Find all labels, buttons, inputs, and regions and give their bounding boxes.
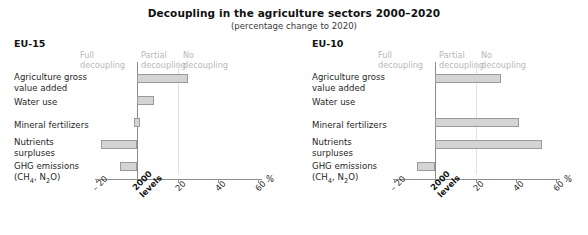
bar-eu15-mineral-fertilizers bbox=[134, 118, 140, 127]
category-label-mineral-fertilizers-eu10: Mineral fertilizers bbox=[312, 120, 387, 131]
category-label-nutrients-surpluses-eu10: Nutrients surpluses bbox=[312, 137, 353, 158]
category-label-line2: (CH4, N2O) bbox=[14, 172, 79, 186]
zone-label-full-line1-eu15: Full bbox=[80, 50, 94, 60]
panel-eu15: EU-15 Full decoupling Partial decoupling… bbox=[0, 34, 294, 235]
chart-title: Decoupling in the agriculture sectors 20… bbox=[0, 7, 588, 19]
x-ticklabel-40-eu15: 40 bbox=[213, 178, 228, 193]
zone-label-full-line2-eu10: decoupling bbox=[378, 60, 423, 70]
zone-label-partial-line2-eu10: decoupling bbox=[439, 60, 484, 70]
zone-label-full-eu15: Full decoupling bbox=[80, 50, 125, 70]
x-axis-unit-eu15: % bbox=[266, 174, 274, 184]
zone-label-no-line2-eu15: decoupling bbox=[183, 60, 228, 70]
category-label-line1: Agriculture gross bbox=[312, 72, 385, 82]
bar-eu15-water-use bbox=[137, 96, 154, 105]
zone-label-full-eu10: Full decoupling bbox=[378, 50, 423, 70]
bar-eu15-nutrients-surpluses bbox=[101, 140, 137, 149]
bar-eu10-ghg-emissions bbox=[417, 162, 435, 171]
category-label-line2: surpluses bbox=[312, 148, 353, 159]
category-label-line1: Nutrients bbox=[14, 137, 54, 147]
category-label-nutrients-surpluses-eu15: Nutrients surpluses bbox=[14, 137, 55, 158]
category-label-line1: Mineral fertilizers bbox=[312, 120, 387, 130]
bar-eu10-mineral-fertilizers bbox=[435, 118, 519, 127]
category-label-line1: Nutrients bbox=[312, 137, 352, 147]
zone-label-no-line2-eu10: decoupling bbox=[481, 60, 526, 70]
x-axis-unit-eu10: % bbox=[564, 174, 572, 184]
panel-eu10: EU-10 Full decoupling Partial decoupling… bbox=[294, 34, 588, 235]
category-label-line1: Mineral fertilizers bbox=[14, 120, 89, 130]
category-label-mineral-fertilizers-eu15: Mineral fertilizers bbox=[14, 120, 89, 131]
category-label-water-use-eu10: Water use bbox=[312, 97, 355, 108]
category-label-ghg-emissions-eu15: GHG emissions (CH4, N2O) bbox=[14, 161, 79, 186]
category-label-water-use-eu15: Water use bbox=[14, 97, 57, 108]
category-label-agriculture-gva-eu10: Agriculture gross value added bbox=[312, 72, 385, 93]
zone-label-no-line1-eu10: No bbox=[481, 50, 492, 60]
chart-subtitle: (percentage change to 2020) bbox=[0, 21, 588, 31]
category-label-ghg-emissions-eu10: GHG emissions (CH4, N2O) bbox=[312, 161, 377, 186]
category-label-line1: Water use bbox=[312, 97, 355, 107]
zone-label-no-eu15: No decoupling bbox=[183, 50, 228, 70]
x-ticklabel-20-eu10: 20 bbox=[471, 178, 486, 193]
category-label-line2: surpluses bbox=[14, 148, 55, 159]
category-label-line2: value added bbox=[14, 83, 87, 94]
category-label-agriculture-gva-eu15: Agriculture gross value added bbox=[14, 72, 87, 93]
x-ticklabel-40-eu10: 40 bbox=[511, 178, 526, 193]
zone-label-partial-eu15: Partial decoupling bbox=[141, 50, 186, 70]
category-label-line1: Water use bbox=[14, 97, 57, 107]
zone-label-partial-eu10: Partial decoupling bbox=[439, 50, 484, 70]
category-label-line2: (CH4, N2O) bbox=[312, 172, 377, 186]
bar-eu15-agriculture-gva bbox=[137, 74, 188, 83]
zone-label-full-line1-eu10: Full bbox=[378, 50, 392, 60]
zone-label-full-line2-eu15: decoupling bbox=[80, 60, 125, 70]
zone-label-no-eu10: No decoupling bbox=[481, 50, 526, 70]
category-label-line1: GHG emissions bbox=[312, 161, 377, 171]
zone-label-partial-line2-eu15: decoupling bbox=[141, 60, 186, 70]
category-label-line2: value added bbox=[312, 83, 385, 94]
bar-eu10-agriculture-gva bbox=[435, 74, 501, 83]
x-ticklabel--20-eu15: – 20 bbox=[90, 174, 109, 193]
plot-area-eu10: Full decoupling Partial decoupling No de… bbox=[294, 34, 588, 235]
category-label-line1: Agriculture gross bbox=[14, 72, 87, 82]
panels-container: EU-15 Full decoupling Partial decoupling… bbox=[0, 34, 588, 235]
x-ticklabel--20-eu10: – 20 bbox=[388, 174, 407, 193]
bar-eu10-nutrients-surpluses bbox=[435, 140, 542, 149]
zone-label-partial-line1-eu10: Partial bbox=[439, 50, 465, 60]
zone-label-partial-line1-eu15: Partial bbox=[141, 50, 167, 60]
x-ticklabel-20-eu15: 20 bbox=[173, 178, 188, 193]
bar-eu15-ghg-emissions bbox=[120, 162, 137, 171]
x-ticklabel-zero-eu10: 2000 levels bbox=[429, 167, 462, 200]
zone-label-no-line1-eu15: No bbox=[183, 50, 194, 60]
plot-area-eu15: Full decoupling Partial decoupling No de… bbox=[0, 34, 294, 235]
category-label-line1: GHG emissions bbox=[14, 161, 79, 171]
x-ticklabel-zero-eu15: 2000 levels bbox=[131, 167, 164, 200]
